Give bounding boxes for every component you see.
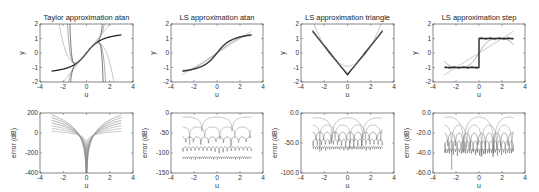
y-tick-label: 2 — [165, 20, 169, 27]
x-tick-label: 2 — [238, 83, 242, 90]
y-tick-label: 1 — [295, 35, 299, 42]
subplot-title: LS approximation step — [442, 13, 517, 22]
y-tick-label: 1 — [34, 35, 38, 42]
axes-box — [301, 113, 394, 173]
x-tick-label: -4 — [37, 83, 43, 90]
x-tick-label: -2 — [321, 83, 327, 90]
x-tick-label: 2 — [108, 83, 112, 90]
y-axis-label: y — [279, 51, 287, 55]
x-axis-label: u — [215, 182, 219, 189]
subplot-err_tri: -4-20240.0-50.0-100.0uerror (dB) — [271, 109, 396, 189]
subplot-title: LS approximation triangle — [305, 13, 390, 22]
y-tick-label: 0 — [165, 49, 169, 56]
y-tick-label: -100 — [156, 149, 169, 156]
y-tick-label: 2 — [295, 20, 299, 27]
subplot-title: Taylor approximation atan — [44, 13, 130, 22]
y-tick-label: -1 — [163, 64, 169, 71]
x-tick-label: -4 — [298, 174, 304, 181]
x-axis-label: u — [215, 91, 219, 98]
y-tick-label: 0 — [34, 129, 38, 136]
x-tick-label: 0 — [346, 83, 350, 90]
plot-lines — [445, 31, 514, 75]
y-tick-label: -60.0 — [416, 169, 431, 176]
x-tick-label: -2 — [321, 174, 327, 181]
x-tick-label: -4 — [430, 174, 436, 181]
x-tick-label: -2 — [191, 174, 197, 181]
subplot-ls_atan: -4-2024210-1-2LS approximation atanuy — [149, 13, 265, 98]
x-tick-label: -4 — [168, 83, 174, 90]
x-tick-label: -2 — [60, 83, 66, 90]
subplot-ls_tri: -4-2024210-1-2LS approximation triangleu… — [279, 13, 396, 98]
y-axis-label: error (dB) — [403, 128, 411, 158]
x-tick-label: 4 — [131, 83, 135, 90]
x-axis-label: u — [477, 182, 481, 189]
x-tick-label: 0 — [346, 174, 350, 181]
y-tick-label: 0 — [34, 49, 38, 56]
plot-lines — [52, 115, 122, 178]
y-tick-label: -40.0 — [416, 149, 431, 156]
y-tick-label: 2 — [34, 20, 38, 27]
figure: -4-2024210-1-2Taylor approximation atanu… — [0, 0, 539, 192]
y-axis-label: y — [149, 51, 157, 55]
y-tick-label: -1 — [425, 64, 431, 71]
x-axis-label: u — [85, 91, 89, 98]
subplot-taylor_atan: -4-2024210-1-2Taylor approximation atanu… — [18, 0, 135, 192]
x-tick-label: 0 — [85, 174, 89, 181]
y-tick-label: -400 — [25, 169, 38, 176]
x-axis-label: u — [346, 91, 350, 98]
x-tick-label: 2 — [500, 83, 504, 90]
x-tick-label: -4 — [298, 83, 304, 90]
y-tick-label: -20.0 — [416, 129, 431, 136]
subplot-err_taylor: -4-20242000-200-400uerror (dB) — [10, 109, 135, 189]
x-tick-label: 4 — [392, 174, 396, 181]
subplot-err_atan: -4-20240-50-100-150uerror (dB) — [141, 109, 265, 189]
x-tick-label: 2 — [108, 174, 112, 181]
y-tick-label: 0 — [427, 49, 431, 56]
y-tick-label: -100.0 — [281, 169, 300, 176]
x-tick-label: 2 — [500, 174, 504, 181]
axes-box — [171, 113, 263, 173]
y-tick-label: -150 — [156, 169, 169, 176]
y-tick-label: 1 — [165, 35, 169, 42]
y-tick-label: -1 — [293, 64, 299, 71]
y-axis-label: error (dB) — [10, 128, 18, 158]
x-tick-label: 2 — [369, 83, 373, 90]
x-tick-label: 4 — [523, 174, 527, 181]
subplot-title: LS approximation atan — [179, 13, 254, 22]
x-tick-label: 4 — [131, 174, 135, 181]
y-tick-label: 2 — [427, 20, 431, 27]
x-tick-label: 0 — [477, 174, 481, 181]
plot-lines — [313, 118, 383, 152]
y-tick-label: -2 — [293, 78, 299, 85]
plot-lines — [183, 117, 252, 160]
x-tick-label: 4 — [523, 83, 527, 90]
y-tick-label: -2 — [32, 78, 38, 85]
x-axis-label: u — [477, 91, 481, 98]
x-tick-label: 0 — [477, 83, 481, 90]
y-tick-label: 0.0 — [290, 109, 299, 116]
x-tick-label: -4 — [168, 174, 174, 181]
axes-box — [433, 113, 525, 173]
y-tick-label: 1 — [427, 35, 431, 42]
x-axis-label: u — [85, 182, 89, 189]
x-tick-label: 2 — [369, 174, 373, 181]
y-axis-label: error (dB) — [271, 128, 279, 158]
y-tick-label: -2 — [425, 78, 431, 85]
x-tick-label: 4 — [392, 83, 396, 90]
y-tick-label: 200 — [27, 109, 38, 116]
y-tick-label: -50 — [160, 129, 170, 136]
x-tick-label: 0 — [215, 83, 219, 90]
y-tick-label: 0.0 — [422, 109, 431, 116]
x-tick-label: -2 — [60, 174, 66, 181]
x-tick-label: 0 — [85, 83, 89, 90]
subplot-ls_step: -4-2024210-1-2LS approximation stepuy — [411, 13, 527, 98]
x-tick-label: 2 — [238, 174, 242, 181]
x-tick-label: 4 — [261, 174, 265, 181]
x-tick-label: 0 — [215, 174, 219, 181]
plot-lines — [183, 31, 252, 75]
y-tick-label: 0 — [165, 109, 169, 116]
y-axis-label: y — [411, 51, 419, 55]
x-tick-label: -2 — [453, 174, 459, 181]
x-axis-label: u — [346, 182, 350, 189]
plot-lines — [313, 20, 383, 74]
